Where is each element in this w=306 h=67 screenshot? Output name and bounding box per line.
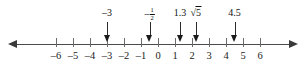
marker-value-text: 1.3 [174,7,187,18]
number-line-figure: –6–5–4–3–2–10123456 –3–121.3√54.5 [0,0,306,67]
marker-value-text: –3 [102,7,112,18]
tick-mark [73,38,74,47]
marker-arrowhead-icon [177,35,183,42]
fraction-denominator: 2 [149,15,154,22]
marker-value-text: 4.5 [228,7,241,18]
marker-label: 4.5 [228,7,241,18]
marker-arrowhead-icon [231,35,237,42]
tick-mark [158,38,159,47]
tick-mark [260,38,261,47]
marker-label: –3 [102,7,112,18]
marker-arrowhead-icon [104,35,110,42]
marker-label: –12 [144,7,154,22]
right-arrowhead-icon [289,40,298,48]
tick-mark [226,38,227,47]
fraction-numerator: 1 [149,7,154,14]
left-arrowhead-icon [8,40,17,48]
tick-mark [124,38,125,47]
marker-arrowhead-icon [193,35,199,42]
marker-label: 1.3 [174,7,187,18]
tick-mark [90,38,91,47]
marker-arrowhead-icon [146,35,152,42]
tick-mark [141,38,142,47]
radicand: 5 [196,6,202,18]
marker-label: √5 [191,7,202,18]
tick-label: 6 [248,50,272,62]
tick-mark [243,38,244,47]
square-root-icon: √5 [191,7,202,18]
fraction: 12 [149,7,154,22]
tick-mark [209,38,210,47]
tick-mark [56,38,57,47]
